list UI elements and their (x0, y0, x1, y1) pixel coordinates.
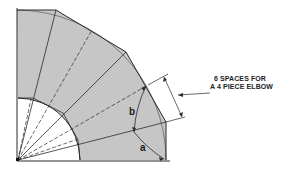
callout-line-2: A 4 PIECE ELBOW (210, 83, 287, 91)
callout-line-1: 6 SPACES FOR (210, 75, 287, 83)
label-a: a (140, 142, 146, 153)
origin-point (16, 158, 19, 161)
elbow-diagram: b a 6 SPACES FOR A 4 PIECE ELBOW (0, 0, 287, 173)
label-b: b (129, 106, 135, 117)
elbow-body (17, 10, 166, 160)
callout-text: 6 SPACES FOR A 4 PIECE ELBOW (210, 75, 287, 91)
